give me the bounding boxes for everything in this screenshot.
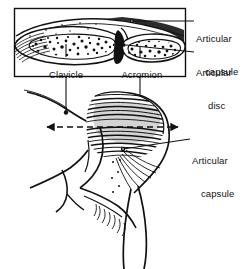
label-articular-capsule-bottom-line2: capsule bbox=[192, 188, 234, 199]
label-articular-capsule-bottom: Articular capsule bbox=[192, 133, 234, 221]
label-clavicle-text: Clavicle bbox=[49, 69, 83, 80]
label-articular-capsule-top-line1: Articular bbox=[196, 33, 238, 44]
inset-disc-point bbox=[122, 43, 126, 47]
shoulder-illustration bbox=[24, 88, 170, 269]
upper-arm-lateral-contour bbox=[138, 186, 146, 269]
torso-lateral-contour bbox=[30, 150, 88, 188]
label-articular-capsule-bottom-line1: Articular bbox=[192, 155, 234, 166]
label-articular-disc: Articular disc bbox=[196, 45, 232, 133]
label-acromion: Acromion bbox=[111, 58, 162, 91]
pectoral-contour-inner bbox=[85, 140, 89, 172]
joint-capsule-hatching bbox=[84, 88, 170, 164]
label-clavicle: Clavicle bbox=[38, 58, 83, 91]
clavicle-target-dot bbox=[64, 110, 68, 114]
chest-stipple bbox=[111, 159, 121, 193]
label-articular-disc-line1: Articular bbox=[196, 67, 232, 78]
label-acromion-text: Acromion bbox=[121, 69, 162, 80]
anatomical-figure: Articular capsule Articular disc Clavicl… bbox=[0, 0, 243, 269]
breast-contour bbox=[56, 170, 67, 212]
upper-arm-medial-contour bbox=[123, 189, 131, 269]
capsule-bottom-target-core bbox=[122, 148, 124, 150]
axillary-fold-inner bbox=[84, 196, 122, 217]
inframammary-line bbox=[67, 194, 84, 210]
label-articular-disc-line2: disc bbox=[196, 100, 232, 111]
